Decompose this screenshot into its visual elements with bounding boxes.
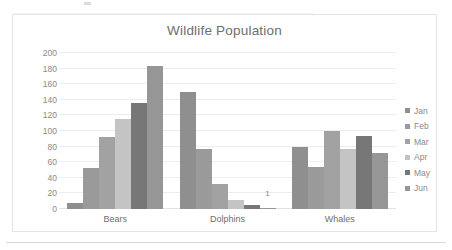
legend-item-may[interactable]: May	[405, 165, 447, 181]
legend-label: Mar	[414, 138, 429, 147]
y-axis-tick-label: 80	[48, 142, 57, 151]
bar-group-dolphins: 1	[180, 53, 276, 209]
bar-dolphins-mar[interactable]	[212, 184, 228, 209]
bar-bears-feb[interactable]	[83, 168, 99, 209]
scan-artifact-speck	[84, 2, 91, 5]
y-axis-tick-labels: 020406080100120140160180200	[25, 53, 57, 209]
bar-group-bears	[67, 53, 163, 209]
bar-bears-may[interactable]	[131, 103, 147, 209]
y-axis-tick-label: 40	[48, 174, 57, 183]
bar-bears-jan[interactable]	[67, 203, 83, 209]
bar-bears-apr[interactable]	[115, 119, 131, 209]
legend-item-jan[interactable]: Jan	[405, 103, 447, 119]
bar-whales-feb[interactable]	[308, 167, 324, 209]
bar-bears-mar[interactable]	[99, 137, 115, 209]
y-axis-tick-label: 60	[48, 158, 57, 167]
legend-swatch-icon	[405, 186, 410, 191]
bar-dolphins-may[interactable]	[244, 205, 260, 209]
x-axis-category-labels: BearsDolphinsWhales	[59, 214, 396, 230]
legend-label: Jun	[414, 184, 428, 193]
bar-dolphins-jan[interactable]	[180, 92, 196, 209]
y-axis-tick-label: 180	[43, 64, 57, 73]
bar-whales-mar[interactable]	[324, 131, 340, 209]
legend-swatch-icon	[405, 155, 410, 160]
bar-whales-may[interactable]	[356, 136, 372, 209]
scan-artifact-bottom-rule	[6, 242, 446, 243]
legend-swatch-icon	[405, 139, 410, 144]
bar-whales-jun[interactable]	[372, 153, 388, 209]
y-axis-tick-label: 140	[43, 96, 57, 105]
y-axis-tick-label: 20	[48, 189, 57, 198]
bar-data-label: 1	[265, 189, 269, 198]
legend-label: Feb	[414, 122, 429, 131]
bar-dolphins-feb[interactable]	[196, 149, 212, 209]
bar-whales-jan[interactable]	[292, 147, 308, 209]
legend-swatch-icon	[405, 108, 410, 113]
legend-label: May	[414, 169, 430, 178]
bar-dolphins-apr[interactable]	[228, 200, 244, 209]
legend-item-apr[interactable]: Apr	[405, 150, 447, 166]
y-axis-tick-label: 120	[43, 111, 57, 120]
y-axis-tick-label: 160	[43, 80, 57, 89]
chart-container[interactable]: Wildlife Population 02040608010012014016…	[12, 14, 437, 232]
bar-group-whales	[292, 53, 388, 209]
legend-label: Apr	[414, 153, 427, 162]
chart-title: Wildlife Population	[13, 23, 436, 38]
plot-area[interactable]: 1	[59, 53, 396, 209]
x-axis-label-dolphins: Dolphins	[210, 214, 245, 224]
y-axis-tick-label: 100	[43, 127, 57, 136]
legend-label: Jan	[414, 107, 428, 116]
legend-swatch-icon	[405, 124, 410, 129]
y-axis-tick-label: 200	[43, 49, 57, 58]
legend-item-jun[interactable]: Jun	[405, 181, 447, 197]
chart-legend[interactable]: JanFebMarAprMayJun	[405, 103, 447, 196]
bar-bears-jun[interactable]	[147, 66, 163, 209]
bar-dolphins-jun[interactable]: 1	[260, 208, 276, 209]
bar-whales-apr[interactable]	[340, 149, 356, 209]
x-axis-label-bears: Bears	[103, 214, 127, 224]
legend-item-mar[interactable]: Mar	[405, 134, 447, 150]
legend-swatch-icon	[405, 170, 410, 175]
y-axis-tick-label: 0	[52, 205, 57, 214]
x-axis-label-whales: Whales	[325, 214, 355, 224]
legend-item-feb[interactable]: Feb	[405, 119, 447, 135]
